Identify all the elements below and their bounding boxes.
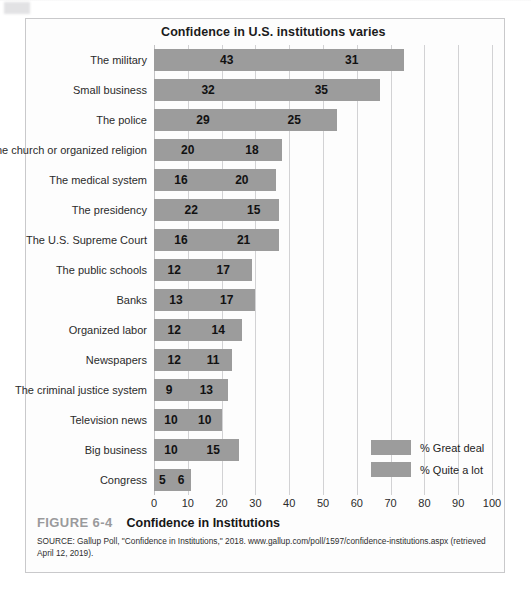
- bar-row: The medical system1620: [154, 165, 492, 195]
- bar-value-label: 22: [154, 199, 228, 221]
- bar-value-label: 14: [195, 319, 242, 341]
- chart-legend: % Great deal% Quite a lot: [371, 440, 484, 484]
- category-label: Newspapers: [0, 349, 147, 371]
- category-label: The military: [0, 49, 147, 71]
- bar-value-label: 43: [154, 49, 299, 71]
- bar-value-label: 20: [154, 139, 222, 161]
- bar-row: The public schools1217: [154, 255, 492, 285]
- x-tick-100: 100: [483, 497, 501, 509]
- x-tick-30: 30: [249, 497, 261, 509]
- x-tick-50: 50: [317, 497, 329, 509]
- category-label: Congress: [0, 469, 147, 491]
- figure-title: Confidence in Institutions: [127, 516, 280, 530]
- legend-item: % Great deal: [371, 440, 484, 455]
- bar-value-label: 12: [154, 319, 195, 341]
- bar-value-label: 29: [154, 109, 252, 131]
- bar-value-label: 18: [222, 139, 283, 161]
- category-label: The church or organized religion: [0, 133, 147, 167]
- x-tick-90: 90: [452, 497, 464, 509]
- bar-value-label: 16: [154, 229, 208, 251]
- bar-value-label: 15: [228, 199, 279, 221]
- bar-value-label: 21: [208, 229, 279, 251]
- x-tick-40: 40: [283, 497, 295, 509]
- category-label: The U.S. Supreme Court: [0, 229, 147, 251]
- figure-number: FIGURE 6-4: [37, 515, 113, 530]
- bar-value-label: 10: [154, 439, 188, 461]
- bar-value-label: 17: [198, 289, 255, 311]
- category-label: Organized labor: [0, 319, 147, 341]
- bar-value-label: 12: [154, 259, 195, 281]
- bar-value-label: 25: [252, 109, 337, 131]
- bar-value-label: 13: [154, 289, 198, 311]
- figure-source: SOURCE: Gallup Poll, "Confidence in Inst…: [37, 536, 494, 559]
- bar-row: The church or organized religion2018: [154, 135, 492, 165]
- bar-row: The police2925: [154, 105, 492, 135]
- category-label: Small business: [0, 79, 147, 101]
- category-label: The police: [0, 109, 147, 131]
- legend-item: % Quite a lot: [371, 462, 484, 477]
- bar-value-label: 15: [188, 439, 239, 461]
- bar-value-label: 5: [154, 469, 171, 491]
- page-artifact: [4, 2, 30, 14]
- bar-value-label: 6: [171, 469, 191, 491]
- category-label: Banks: [0, 289, 147, 311]
- bar-rows: The military4331Small business3235The po…: [154, 45, 492, 495]
- bar-row: The criminal justice system913: [154, 375, 492, 405]
- bar-row: The presidency2215: [154, 195, 492, 225]
- category-label: The medical system: [0, 169, 147, 191]
- bar-value-label: 11: [195, 349, 232, 371]
- legend-label: % Quite a lot: [420, 464, 483, 476]
- x-tick-60: 60: [351, 497, 363, 509]
- legend-swatch: [371, 462, 411, 477]
- bar-value-label: 17: [195, 259, 252, 281]
- figure-caption: FIGURE 6-4 Confidence in Institutions SO…: [37, 515, 494, 559]
- bar-value-label: 10: [154, 409, 188, 431]
- x-tick-20: 20: [215, 497, 227, 509]
- bar-value-label: 10: [188, 409, 222, 431]
- bar-value-label: 12: [154, 349, 195, 371]
- bar-value-label: 20: [208, 169, 276, 191]
- x-axis: 0102030405060708090100: [154, 497, 492, 515]
- bar-value-label: 32: [154, 79, 262, 101]
- bar-value-label: 9: [154, 379, 184, 401]
- figure-card: Confidence in U.S. institutions varies T…: [25, 18, 505, 573]
- x-tick-10: 10: [182, 497, 194, 509]
- bar-value-label: 16: [154, 169, 208, 191]
- x-tick-70: 70: [384, 497, 396, 509]
- category-label: The criminal justice system: [0, 373, 147, 407]
- legend-swatch: [371, 440, 411, 455]
- bar-value-label: 31: [299, 49, 404, 71]
- x-tick-0: 0: [151, 497, 157, 509]
- bar-value-label: 13: [184, 379, 228, 401]
- category-label: Big business: [0, 439, 147, 461]
- bar-row: Banks1317: [154, 285, 492, 315]
- chart-plot-area: The military4331Small business3235The po…: [154, 45, 492, 495]
- bar-row: Organized labor1214: [154, 315, 492, 345]
- gridline-100: [492, 45, 493, 495]
- bar-row: Newspapers1211: [154, 345, 492, 375]
- chart-title: Confidence in U.S. institutions varies: [161, 25, 386, 39]
- x-tick-80: 80: [418, 497, 430, 509]
- bar-row: The U.S. Supreme Court1621: [154, 225, 492, 255]
- bar-row: Small business3235: [154, 75, 492, 105]
- bar-row: The military4331: [154, 45, 492, 75]
- legend-label: % Great deal: [420, 442, 484, 454]
- bar-row: Television news1010: [154, 405, 492, 435]
- category-label: Television news: [0, 409, 147, 431]
- category-label: The public schools: [0, 259, 147, 281]
- category-label: The presidency: [0, 199, 147, 221]
- bar-value-label: 35: [262, 79, 380, 101]
